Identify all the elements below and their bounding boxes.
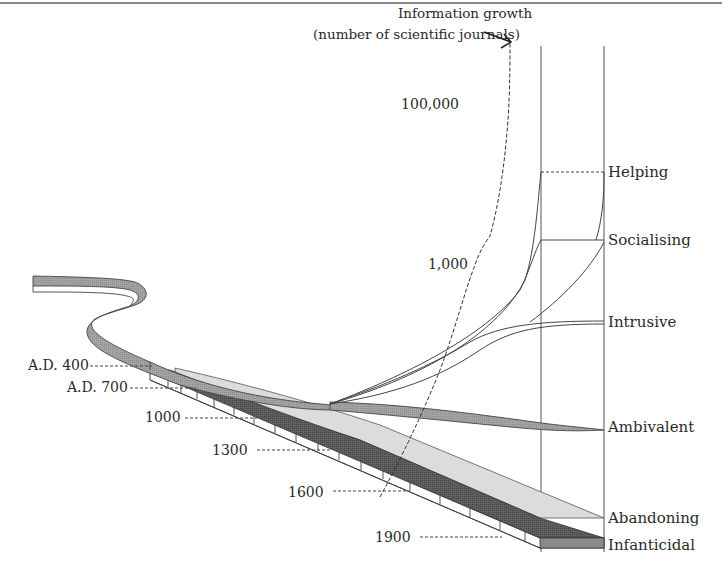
mode-label-abandoning: Abandoning xyxy=(607,509,700,527)
psychohistory-diagram: Information growth (number of scientific… xyxy=(0,0,722,571)
date-label-1000: 1000 xyxy=(145,409,181,425)
mode-label-helping: Helping xyxy=(608,163,669,181)
mode-label-ambivalent: Ambivalent xyxy=(607,418,694,436)
figure-title-line2: (number of scientific journals) xyxy=(313,26,520,42)
date-label-1600: 1600 xyxy=(288,484,324,500)
band-infanticidal-edge xyxy=(540,538,604,548)
curve-intrusive xyxy=(330,321,604,404)
curve-helping xyxy=(330,172,604,404)
figure-title-line1: Information growth xyxy=(398,5,533,21)
mode-label-intrusive: Intrusive xyxy=(608,313,676,331)
date-label-ad400: A.D. 400 xyxy=(27,357,89,373)
date-label-1300: 1300 xyxy=(212,442,248,458)
mode-label-infanticidal: Infanticidal xyxy=(608,536,695,554)
mode-label-socialising: Socialising xyxy=(608,231,691,249)
journal-scale-1000: 1,000 xyxy=(428,256,468,272)
date-label-1900: 1900 xyxy=(375,529,411,545)
mode-labels: Helping Socialising Intrusive Ambivalent… xyxy=(607,163,700,554)
date-label-ad700: A.D. 700 xyxy=(66,379,128,395)
journal-scale-100000: 100,000 xyxy=(401,96,459,112)
